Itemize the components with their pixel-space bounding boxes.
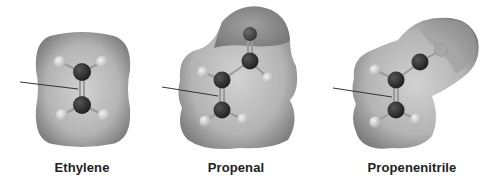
carbon-atom: [412, 54, 429, 71]
hydrogen-atom: [238, 114, 249, 125]
hydrogen-atom: [200, 116, 211, 127]
propenal-label: Propenal: [208, 160, 264, 175]
hydrogen-atom: [56, 109, 68, 121]
oxygen-atom: [243, 27, 257, 41]
carbon-atom: [214, 102, 231, 119]
carbon-atom: [73, 96, 91, 114]
ethylene-model: [20, 32, 130, 147]
hydrogen-atom: [98, 109, 110, 121]
ethylene-potential-surface: [36, 32, 130, 147]
nitrogen-atom: [435, 44, 448, 57]
carbon-atom: [388, 72, 405, 89]
hydrogen-atom: [370, 65, 381, 76]
carbon-atom: [73, 63, 91, 81]
ethylene-label: Ethylene: [55, 160, 110, 175]
hydrogen-atom: [198, 67, 209, 78]
carbon-atom: [388, 102, 405, 119]
carbon-atom: [242, 53, 259, 70]
hydrogen-atom: [370, 117, 381, 128]
propenenitrile-model: [333, 18, 479, 149]
hydrogen-atom: [411, 114, 422, 125]
hydrogen-atom: [263, 73, 274, 84]
propenenitrile-label: Propenenitrile: [368, 160, 457, 175]
carbon-atom: [214, 72, 231, 89]
hydrogen-atom: [96, 56, 108, 68]
molecule-figure: [0, 0, 499, 187]
propenal-model: [162, 7, 297, 149]
hydrogen-atom: [54, 56, 66, 68]
